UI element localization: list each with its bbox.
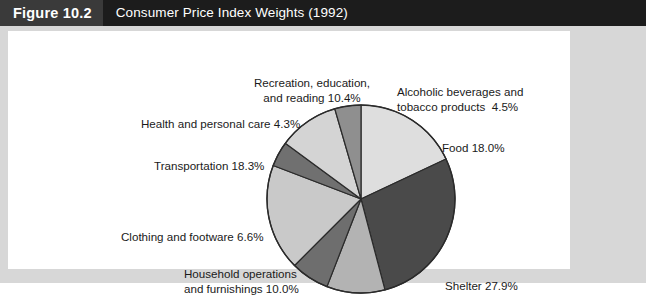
pie-label-food: Food 18.0%	[442, 141, 505, 156]
pie-label-shelter: Shelter 27.9%	[445, 279, 518, 294]
pie-label-transportation: Transportation 18.3%	[154, 159, 264, 174]
pie-label-recreation: Recreation, education, and reading 10.4%	[254, 76, 370, 105]
figure-number-label: Figure 10.2	[0, 0, 103, 26]
pie-label-clothing-and-footware: Clothing and footware 6.6%	[121, 230, 263, 245]
chart-panel: Recreation, education, and reading 10.4%…	[8, 31, 570, 269]
pie-label-health-and-personal-care: Health and personal care 4.3%	[141, 117, 300, 132]
figure-title: Consumer Price Index Weights (1992)	[103, 0, 348, 26]
figure-header-bar: Figure 10.2 Consumer Price Index Weights…	[0, 0, 646, 26]
pie-label-household-operations: Household operations and furnishings 10.…	[184, 267, 299, 296]
pie-label-alcoholic-beverages: Alcoholic beverages and tobacco products…	[397, 85, 523, 114]
